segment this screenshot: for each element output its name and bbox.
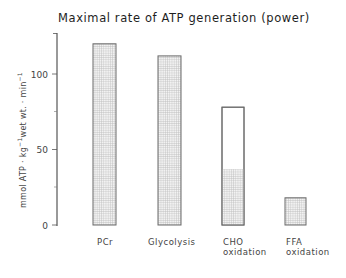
x-label-ffa-oxidation: FFA oxidation [286,237,330,257]
x-label-pcr: PCr [97,237,113,247]
x-label-glycolysis: Glycolysis [148,237,195,247]
x-label-ffa-line1: FFA [286,237,330,247]
bar-cho-shaded [223,169,244,224]
x-label-pcr-line1: PCr [97,237,113,247]
y-tick-50: 50 [37,145,49,155]
bar-pcr [93,44,116,225]
y-axis: 0 50 100 [31,33,57,231]
y-tick-0: 0 [42,221,48,231]
x-label-cho-line2: oxidation [223,247,267,257]
x-label-ffa-line2: oxidation [286,247,330,257]
bar-glycolysis [158,56,181,225]
x-label-glycolysis-line1: Glycolysis [148,237,195,247]
bar-ffa-oxidation [285,198,306,225]
bar-cho-oxidation [222,107,244,225]
x-label-cho-oxidation: CHO oxidation [223,237,267,257]
y-tick-100: 100 [31,70,48,80]
x-label-cho-line1: CHO [223,237,267,247]
